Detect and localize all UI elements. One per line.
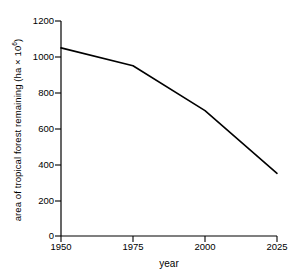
line-chart-figure: area of tropical forest remaining (ha × … bbox=[0, 0, 299, 278]
x-axis-ticks bbox=[61, 236, 277, 242]
y-axis-ticks bbox=[55, 21, 61, 236]
data-series-line bbox=[61, 48, 277, 173]
plot-area bbox=[0, 0, 299, 278]
